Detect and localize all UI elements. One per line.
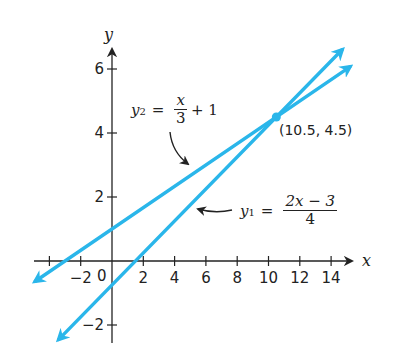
- x-tick-label: 14: [322, 269, 341, 287]
- x-tick-label: 8: [232, 269, 242, 287]
- y-tick-label: 4: [94, 124, 104, 142]
- x-tick-label: 10: [259, 269, 278, 287]
- y-axis-label: y: [103, 25, 114, 44]
- intersection-point: [272, 113, 281, 122]
- y2-fraction: x 3: [174, 93, 186, 126]
- y2-lhs: y: [131, 101, 139, 119]
- y2-numerator: x: [174, 93, 186, 110]
- x-tick-label: 4: [170, 269, 180, 287]
- intersection-label: (10.5, 4.5): [279, 122, 352, 138]
- y1-fraction: 2x − 3 4: [283, 194, 337, 227]
- x-axis-label: x: [362, 251, 371, 270]
- x-tick-label: 6: [201, 269, 211, 287]
- y-tick-label: −2: [82, 316, 104, 334]
- y1-denominator: 4: [305, 211, 315, 227]
- equation-label-y1: y1 = 2x − 3 4: [240, 194, 341, 227]
- chart-canvas: xy −202468101214−2246: [0, 0, 394, 362]
- x-tick-label: 0: [97, 267, 107, 285]
- y2-denominator: 3: [176, 110, 186, 126]
- equation-label-y2: y2 = x 3 + 1: [131, 93, 218, 126]
- x-tick-label: 2: [139, 269, 149, 287]
- y-tick-label: 6: [94, 60, 104, 78]
- y2-tail: + 1: [191, 101, 218, 119]
- y1-subscript: 1: [248, 207, 254, 218]
- y1-numerator: 2x − 3: [283, 194, 337, 211]
- y2-subscript: 2: [139, 106, 145, 117]
- equals-sign: =: [152, 101, 165, 119]
- x-tick-label: 12: [290, 269, 309, 287]
- callout-arrow-y2: [170, 132, 188, 164]
- equals-sign: =: [261, 202, 274, 220]
- x-tick-label: −2: [70, 269, 92, 287]
- callout-arrow-y1: [198, 209, 232, 212]
- y-tick-label: 2: [94, 188, 104, 206]
- y1-lhs: y: [240, 202, 248, 220]
